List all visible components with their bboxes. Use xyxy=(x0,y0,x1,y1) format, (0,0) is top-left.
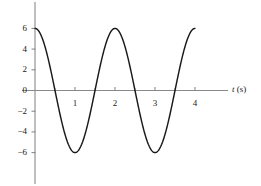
x-tick-label: 3 xyxy=(145,99,165,108)
x-axis-unit: (s) xyxy=(235,84,247,94)
figure-container: 6420−2−4−6 1234 t (s) xyxy=(0,0,261,186)
y-tick-label: 6 xyxy=(0,24,27,33)
y-tick-label: −6 xyxy=(0,148,27,157)
y-tick-label: 2 xyxy=(0,65,27,74)
y-tick-label: −4 xyxy=(0,127,27,136)
x-axis-title: t (s) xyxy=(232,85,246,94)
y-tick-label: 0 xyxy=(0,86,27,95)
y-tick-label: 4 xyxy=(0,45,27,54)
y-tick-label: −2 xyxy=(0,107,27,116)
x-tick-label: 4 xyxy=(185,99,205,108)
x-tick-label: 1 xyxy=(65,99,85,108)
x-tick-label: 2 xyxy=(105,99,125,108)
chart-canvas xyxy=(0,0,261,186)
